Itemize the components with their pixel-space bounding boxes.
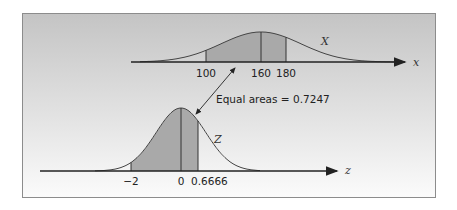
equal-areas-annotation: Equal areas = 0.7247 xyxy=(216,93,330,105)
z-curve-label: Z xyxy=(213,133,222,146)
figure: x X 100 160 180 z Z −2 0 0.6666 Equal ar… xyxy=(0,0,457,210)
z-tick-0-6666: 0.6666 xyxy=(191,175,228,187)
x-axis-label: x xyxy=(413,56,420,69)
z-tick-0: 0 xyxy=(178,175,185,187)
x-tick-100: 100 xyxy=(196,67,216,79)
x-curve-label: X xyxy=(320,35,330,48)
z-axis-label: z xyxy=(344,164,351,177)
x-tick-180: 180 xyxy=(276,67,296,79)
z-tick-minus-2: −2 xyxy=(123,175,138,187)
x-tick-160: 160 xyxy=(251,67,271,79)
